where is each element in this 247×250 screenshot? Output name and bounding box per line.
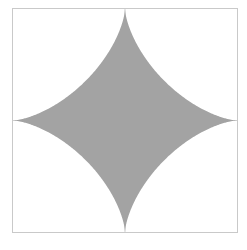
- plot-svg: [13, 9, 237, 232]
- plot-frame: [12, 8, 238, 233]
- astroid-shape: [13, 9, 237, 232]
- figure-root: [0, 0, 247, 250]
